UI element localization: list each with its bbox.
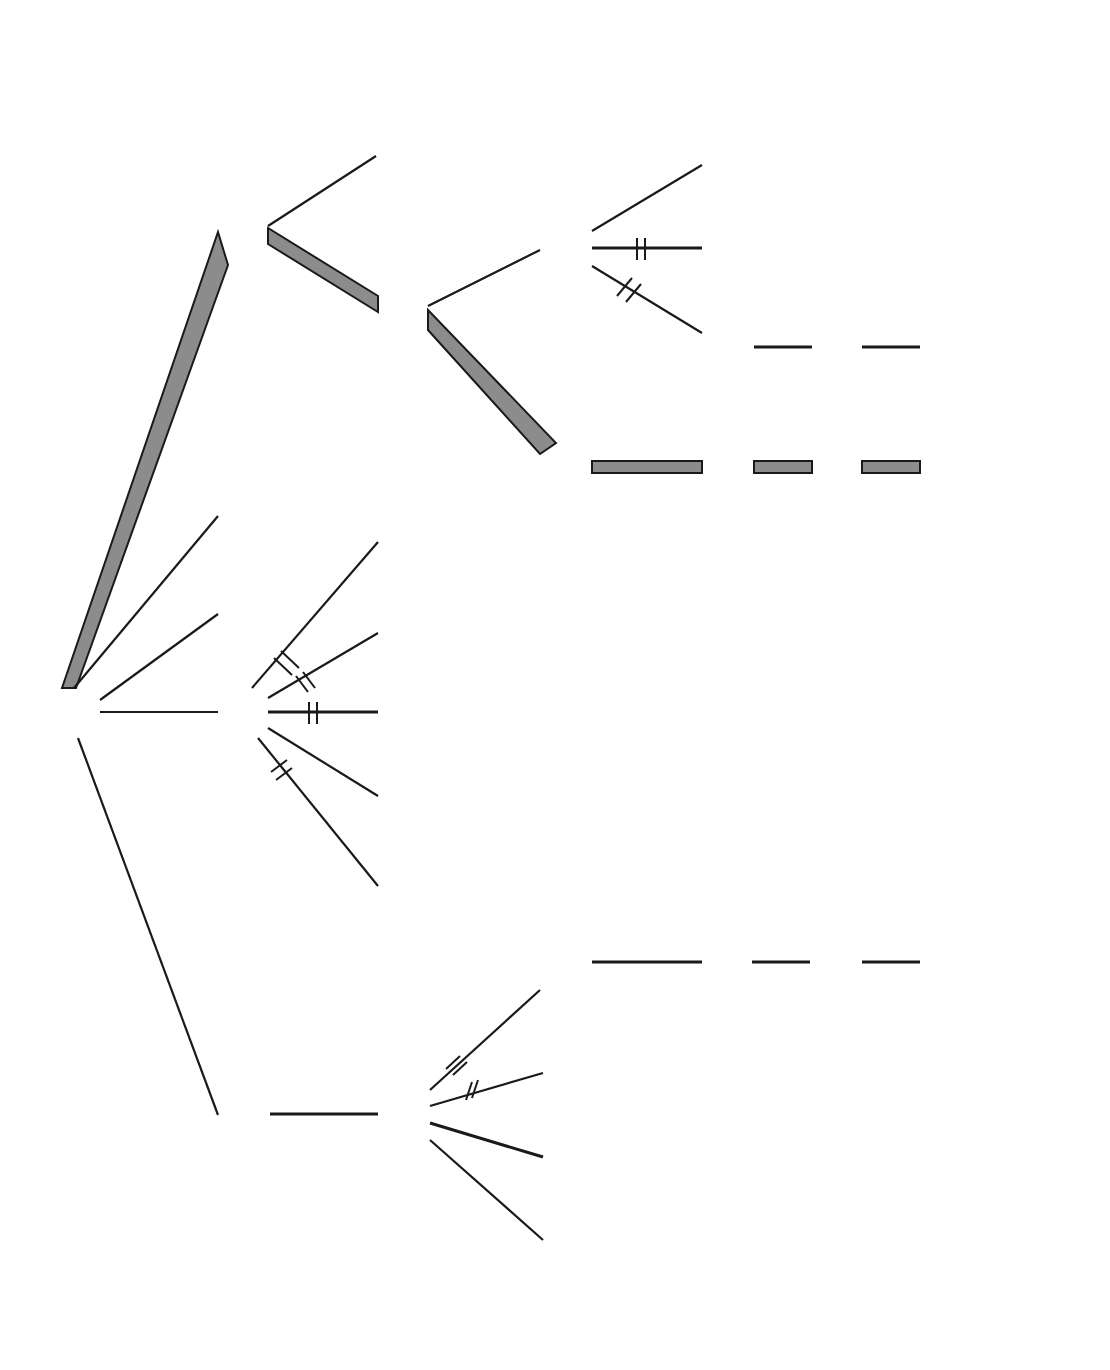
- cut-mark-ag-icon: [281, 651, 299, 668]
- edge-cd: [100, 614, 218, 700]
- best-path: [62, 228, 920, 688]
- edge-cp-best: [754, 461, 812, 473]
- cut-mark-tm-icon: [617, 278, 632, 296]
- infeasible-marks: [271, 0, 645, 1100]
- branch-and-bound-tree: [0, 0, 1110, 1370]
- cut-mark-bl-icon: [472, 1080, 478, 1098]
- edge-e-bg: [268, 633, 378, 698]
- edge-sg-best: [268, 228, 378, 312]
- edge-ase-bm: [592, 165, 702, 231]
- edge-ts-al: [430, 990, 540, 1090]
- cut-mark-ag-icon: [274, 658, 292, 675]
- edge-er-best: [862, 461, 920, 473]
- edge-ts-bl: [430, 1073, 543, 1106]
- edge-ts-el: [430, 1140, 543, 1240]
- edge-tl-best: [428, 310, 556, 454]
- edge-ad-best: [62, 232, 228, 688]
- cut-mark-tm-icon: [626, 284, 641, 302]
- edge-ase-tm: [592, 266, 702, 333]
- edge-bm-best: [592, 461, 702, 473]
- edge-as-el: [428, 250, 540, 306]
- cut-mark-al-icon: [446, 1056, 460, 1069]
- edge-td: [78, 738, 218, 1115]
- edge-a-bg: [268, 156, 376, 226]
- edge-e-ag: [252, 542, 378, 688]
- cut-mark-bl-icon: [466, 1082, 472, 1100]
- edge-ts-cl: [430, 1123, 543, 1157]
